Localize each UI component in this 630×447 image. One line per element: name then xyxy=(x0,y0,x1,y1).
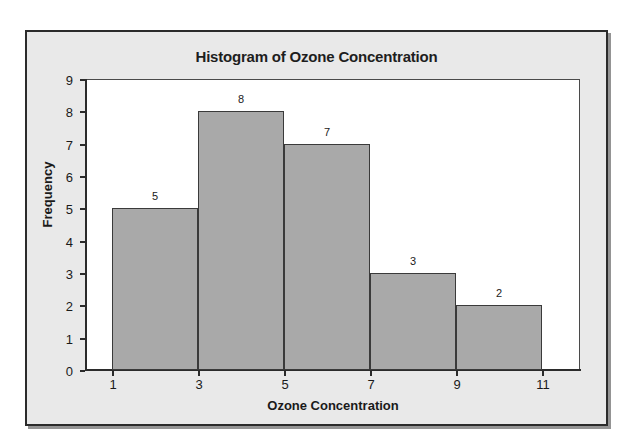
x-tick-mark-7 xyxy=(370,371,372,376)
histogram-bar-label-1: 5 xyxy=(140,190,170,202)
x-tick-label-1: 1 xyxy=(98,378,128,391)
y-tick-label-7: 7 xyxy=(53,139,73,152)
histogram-bar-label-2: 8 xyxy=(226,93,256,105)
x-tick-mark-1 xyxy=(112,371,114,376)
y-tick-mark-1 xyxy=(80,338,85,340)
x-tick-label-5: 5 xyxy=(270,378,300,391)
histogram-bar-4 xyxy=(370,273,456,370)
x-tick-mark-9 xyxy=(456,371,458,376)
x-tick-label-3: 3 xyxy=(184,378,214,391)
y-tick-label-8: 8 xyxy=(53,106,73,119)
y-tick-label-1: 1 xyxy=(53,333,73,346)
histogram-bar-3 xyxy=(284,144,370,370)
y-axis-line xyxy=(85,79,87,370)
x-axis-title: Ozone Concentration xyxy=(85,398,581,413)
y-tick-mark-0 xyxy=(80,370,85,372)
histogram-bar-2 xyxy=(198,111,284,370)
y-tick-label-4: 4 xyxy=(53,236,73,249)
y-tick-mark-3 xyxy=(80,273,85,275)
histogram-bar-label-3: 7 xyxy=(312,126,342,138)
x-tick-mark-3 xyxy=(198,371,200,376)
histogram-bar-label-5: 2 xyxy=(484,287,514,299)
y-tick-label-0: 0 xyxy=(53,365,73,378)
x-tick-label-11: 11 xyxy=(528,378,558,391)
y-tick-mark-2 xyxy=(80,305,85,307)
y-tick-mark-5 xyxy=(80,208,85,210)
y-tick-label-9: 9 xyxy=(53,74,73,87)
histogram-bar-1 xyxy=(112,208,198,370)
y-tick-mark-9 xyxy=(80,79,85,81)
x-tick-label-7: 7 xyxy=(356,378,386,391)
chart-title: Histogram of Ozone Concentration xyxy=(27,48,606,65)
histogram-bar-label-4: 3 xyxy=(398,255,428,267)
x-tick-label-9: 9 xyxy=(442,378,472,391)
chart-frame: Histogram of Ozone Concentration 9 8 7 6… xyxy=(25,30,608,426)
y-tick-mark-4 xyxy=(80,241,85,243)
y-tick-mark-7 xyxy=(80,144,85,146)
y-tick-label-3: 3 xyxy=(53,268,73,281)
histogram-bar-5 xyxy=(456,305,542,370)
y-tick-label-2: 2 xyxy=(53,300,73,313)
y-tick-label-6: 6 xyxy=(53,171,73,184)
x-tick-mark-11 xyxy=(542,371,544,376)
y-tick-label-5: 5 xyxy=(53,203,73,216)
y-axis-title: Frequency xyxy=(40,150,55,240)
x-tick-mark-5 xyxy=(284,371,286,376)
y-tick-mark-8 xyxy=(80,111,85,113)
y-tick-mark-6 xyxy=(80,176,85,178)
